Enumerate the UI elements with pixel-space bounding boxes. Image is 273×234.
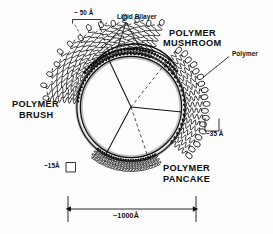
label-polymer-mushroom-line2: MUSHROOM (163, 39, 221, 49)
dimension-brush-thickness: ~ 50 Å (74, 10, 93, 17)
scale-bar-label: ~1000Å (113, 212, 139, 220)
label-lipid-bilayer: Lipid Bilayer (117, 14, 157, 21)
label-polymer-pancake-line1: POLYMER (163, 164, 210, 174)
figure-canvas: ~ 50 Å Lipid Bilayer POLYMER MUSHROOM Po… (0, 0, 273, 234)
label-polymer-brush-line2: BRUSH (19, 111, 53, 121)
label-polymer-pancake-line2: PANCAKE (163, 175, 210, 185)
label-polymer-callout: Polymer (232, 51, 258, 58)
dimension-pancake-thickness: ~15Å (44, 163, 60, 170)
label-polymer-brush-line1: POLYMER (12, 100, 59, 110)
dimension-mushroom-thickness: ~35 Å (206, 131, 223, 138)
polymer-mushroom-region (164, 46, 210, 160)
